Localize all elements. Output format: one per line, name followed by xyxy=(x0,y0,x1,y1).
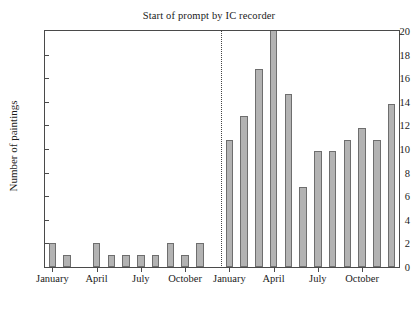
chart-title: Start of prompt by IC recorder xyxy=(0,10,418,21)
y-axis-tick-label: 6 xyxy=(405,191,410,202)
x-axis-tick-mark xyxy=(274,268,275,272)
y-axis-tick-label: 10 xyxy=(400,144,411,155)
x-axis-tick-mark xyxy=(52,268,53,272)
chart-container: Start of prompt by IC recorder Number of… xyxy=(0,0,418,310)
bar xyxy=(181,255,188,267)
y-axis-tick-label: 16 xyxy=(400,73,411,84)
bar xyxy=(358,128,365,267)
bar xyxy=(299,187,306,267)
x-axis-tick-label: April xyxy=(263,273,285,284)
x-axis-tick-mark xyxy=(141,268,142,272)
x-axis-tick-label: October xyxy=(345,273,379,284)
bar xyxy=(152,255,159,267)
x-axis-tick-mark xyxy=(229,268,230,272)
bar xyxy=(270,31,277,267)
y-axis-tick-label: 0 xyxy=(405,262,410,273)
bar xyxy=(373,140,380,267)
bar xyxy=(255,69,262,267)
bar xyxy=(388,104,395,267)
x-axis-tick-mark xyxy=(97,268,98,272)
x-axis-tick-label: July xyxy=(132,273,150,284)
bar xyxy=(49,243,56,267)
x-axis-tick-label: January xyxy=(213,273,246,284)
bars-layer xyxy=(45,31,399,267)
y-axis-tick-label: 14 xyxy=(400,96,411,107)
x-axis-tick-mark xyxy=(318,268,319,272)
bar xyxy=(314,151,321,267)
bar xyxy=(344,140,351,267)
y-axis-tick-label: 4 xyxy=(405,214,410,225)
x-axis-tick-label: April xyxy=(86,273,108,284)
bar xyxy=(63,255,70,267)
bar xyxy=(122,255,129,267)
y-axis-tick-label: 12 xyxy=(400,120,411,131)
y-axis-tick-label: 20 xyxy=(400,26,411,37)
y-axis-tick-label: 18 xyxy=(400,49,411,60)
bar xyxy=(137,255,144,267)
bar xyxy=(196,243,203,267)
y-axis-label: Number of paintings xyxy=(7,61,19,231)
x-axis-tick-label: October xyxy=(168,273,202,284)
bar xyxy=(167,243,174,267)
start-of-prompt-divider-line xyxy=(221,30,222,268)
bar xyxy=(285,94,292,267)
y-axis-tick-label: 2 xyxy=(405,238,410,249)
y-axis-tick-label: 8 xyxy=(405,167,410,178)
x-axis-tick-label: January xyxy=(36,273,69,284)
bar xyxy=(226,140,233,267)
bar xyxy=(329,151,336,267)
bar xyxy=(240,116,247,267)
x-axis-tick-label: July xyxy=(309,273,327,284)
bar xyxy=(93,243,100,267)
x-axis-tick-mark xyxy=(362,268,363,272)
x-axis-tick-mark xyxy=(185,268,186,272)
bar xyxy=(108,255,115,267)
